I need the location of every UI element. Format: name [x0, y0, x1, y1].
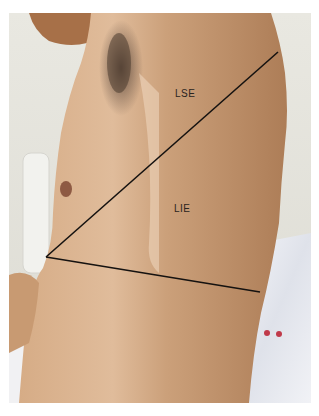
- photo-illustration: [9, 13, 311, 403]
- nipple: [60, 181, 72, 197]
- bed-frame: [23, 153, 49, 273]
- label-lie: LIE: [174, 203, 191, 214]
- torso-photograph: LSE LIE: [9, 13, 311, 403]
- label-lse: LSE: [175, 88, 195, 99]
- sheet-marker: [264, 330, 270, 336]
- sheet-marker-2: [276, 331, 282, 337]
- armpit-hair-dense: [107, 33, 131, 93]
